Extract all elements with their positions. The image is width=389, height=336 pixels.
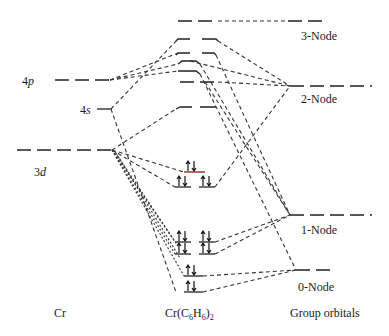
mo-diagram: 4p 4s 3d <box>0 0 389 336</box>
label-3d: 3d <box>34 165 47 179</box>
cr-atomic-levels <box>17 80 112 150</box>
label-2-node: 2-Node <box>301 92 337 106</box>
label-4s: 4s <box>80 103 91 117</box>
electron-pair-12 <box>186 265 196 275</box>
mo-level-5 <box>178 71 200 74</box>
electron-pair-8 <box>186 161 196 171</box>
electron-pair-11b <box>201 243 211 253</box>
mo-level-4 <box>178 61 200 64</box>
electron-pairs <box>177 161 211 291</box>
column-title-complex: Cr(C6H6)2 <box>165 306 214 322</box>
column-title-cr: Cr <box>54 306 66 320</box>
electron-pair-13 <box>186 281 196 291</box>
electron-pair-9a <box>177 176 187 186</box>
complex-mo-levels <box>175 21 218 292</box>
electron-pair-9b <box>201 176 211 186</box>
column-title-group-orbitals: Group orbitals <box>290 306 360 320</box>
label-4p: 4p <box>22 74 34 88</box>
mo-level-7 <box>176 107 216 109</box>
mo-level-2 <box>176 39 218 41</box>
label-1-node: 1-Node <box>301 223 337 237</box>
electron-pair-10b <box>201 231 211 241</box>
label-0-node: 0-Node <box>298 280 334 294</box>
electron-pair-11a <box>177 243 187 253</box>
label-3-node: 3-Node <box>301 29 337 43</box>
electron-pair-10a <box>177 231 187 241</box>
mo-level-3 <box>176 53 216 55</box>
